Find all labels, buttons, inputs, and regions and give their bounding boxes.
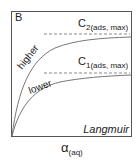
- asymptote-lower-sub: 1(ads, max): [86, 61, 128, 70]
- asymptote-label-upper: C2(ads, max): [78, 18, 128, 32]
- x-axis-label-main: α: [61, 140, 69, 155]
- asymptote-upper-sub: 2(ads, max): [86, 23, 128, 32]
- panel-label: B: [15, 12, 22, 23]
- asymptote-upper-main: C: [78, 17, 86, 29]
- asymptote-lower-main: C: [78, 55, 86, 67]
- curve-label-lower: lower: [27, 77, 54, 96]
- x-axis-label-sub: (aq): [69, 148, 83, 157]
- model-name-label: Langmuir: [83, 124, 129, 135]
- asymptote-label-lower: C1(ads, max): [78, 56, 128, 70]
- x-axis-label: α(aq): [61, 141, 83, 157]
- curve-label-higher: higher: [15, 42, 41, 71]
